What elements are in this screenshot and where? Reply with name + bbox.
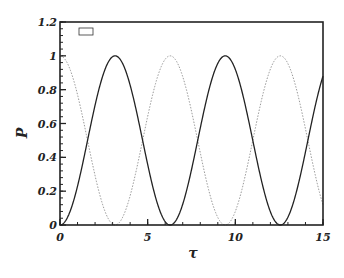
series-dotted-line xyxy=(60,56,323,225)
y-tick-labels: 00.20.40.60.811.2 xyxy=(38,16,57,232)
x-tick-labels: 051015 xyxy=(56,231,330,244)
y-tick-label: 0.8 xyxy=(38,84,57,97)
y-axis-label: P xyxy=(14,127,30,139)
legend-box xyxy=(79,28,93,35)
chart: 00.20.40.60.811.2 051015 P τ xyxy=(0,0,344,278)
y-tick-label: 1 xyxy=(49,50,57,63)
y-tick-label: 0.4 xyxy=(38,151,57,164)
x-tick-label: 0 xyxy=(56,231,64,244)
x-tick-label: 5 xyxy=(144,231,152,244)
y-tick-label: 0.6 xyxy=(38,118,57,131)
minor-ticks xyxy=(60,22,323,225)
x-axis-label: τ xyxy=(188,245,198,261)
x-tick-label: 15 xyxy=(315,231,330,244)
major-ticks xyxy=(60,22,323,225)
y-tick-label: 0.2 xyxy=(38,185,57,198)
y-tick-label: 1.2 xyxy=(38,16,57,29)
series-solid-line xyxy=(60,56,323,225)
plot-frame xyxy=(60,22,323,225)
x-tick-label: 10 xyxy=(228,231,244,244)
